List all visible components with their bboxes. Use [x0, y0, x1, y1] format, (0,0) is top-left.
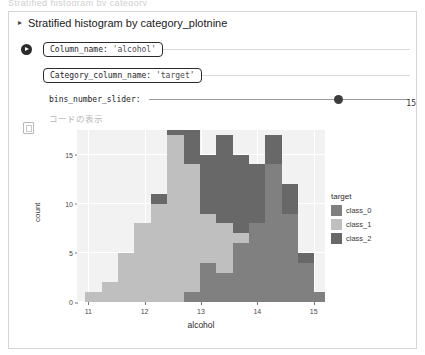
page-title: Stratified histogram by category_plotnin… [28, 17, 227, 29]
histogram-bar [184, 130, 200, 164]
histogram-bar [85, 292, 101, 302]
histogram-bar [233, 243, 249, 302]
notebook-cell-panel: ▸ Stratified histogram by category_plotn… [8, 11, 417, 349]
legend-items: class_0class_1class_2 [331, 204, 401, 245]
legend-label: class_0 [346, 206, 371, 215]
histogram-bar [167, 135, 183, 302]
x-tick-mark [314, 302, 315, 305]
category-column-name-row: Category_column_name: 'target' [9, 62, 416, 88]
histogram-bar [118, 253, 134, 302]
legend-swatch [331, 205, 342, 216]
legend-title: target [331, 192, 401, 201]
category-column-name-field[interactable]: Category_column_name: 'target' [43, 68, 202, 83]
legend-swatch [331, 219, 342, 230]
legend-swatch [331, 233, 342, 244]
histogram-bar [282, 214, 298, 302]
x-tick-label: 11 [85, 308, 92, 315]
plot-panel [77, 130, 325, 302]
histogram-bar [184, 292, 200, 302]
clipped-header-text: Stratified histogram by category [8, 0, 147, 6]
x-tick-mark [145, 302, 146, 305]
x-axis-label: alcohol [77, 320, 325, 330]
category-column-name-value: 'target' [156, 71, 195, 80]
y-axis-label: count [33, 202, 42, 222]
category-column-name-label: Category_column_name: [50, 71, 151, 80]
y-tick-label: 10 [65, 200, 73, 207]
run-gutter[interactable] [9, 44, 43, 55]
histogram-bar [249, 164, 265, 223]
x-tick-label: 14 [253, 308, 261, 315]
column-name-field[interactable]: Column_name: 'alcohol' [43, 42, 163, 57]
histogram-bar [216, 273, 232, 302]
bins-number-slider[interactable]: 15 [149, 99, 410, 100]
x-tick-label: 13 [197, 308, 205, 315]
histogram-bar [134, 223, 150, 302]
histogram-bar [167, 130, 183, 135]
histogram-bar [265, 164, 281, 302]
bins-slider-value: 15 [406, 99, 416, 108]
histogram-bar [233, 233, 249, 243]
legend-item: class_1 [331, 218, 401, 231]
bins-slider-row: bins_number_slider: 15 [9, 88, 416, 110]
x-tick-label: 12 [141, 308, 149, 315]
histogram-bar [298, 263, 314, 302]
x-tick-label: 15 [310, 308, 318, 315]
legend: target class_0class_1class_2 [331, 192, 401, 246]
x-axis-ticks: 1112131415 [77, 302, 325, 318]
histogram-bar [314, 292, 325, 302]
x-tick-mark [257, 302, 258, 305]
histogram-bar [216, 135, 232, 223]
widget-controls: Column_name: 'alcohol' Category_column_n… [9, 36, 416, 124]
y-tick-label: 0 [69, 299, 73, 306]
play-icon[interactable] [21, 44, 32, 55]
histogram-plot: count 051015 1112131415 alcohol target c… [27, 130, 405, 342]
histogram-bar [200, 263, 216, 302]
histogram-bar [200, 214, 216, 263]
panel-header[interactable]: ▸ Stratified histogram by category_plotn… [9, 12, 416, 34]
y-tick-label: 15 [65, 151, 73, 158]
column-name-row: Column_name: 'alcohol' [9, 36, 416, 62]
histogram-bar [102, 282, 118, 302]
histogram-bar [151, 204, 167, 302]
output-area: count 051015 1112131415 alcohol target c… [9, 116, 416, 350]
x-tick-mark [88, 302, 89, 305]
column-name-label: Column_name: [50, 45, 108, 54]
legend-label: class_2 [346, 234, 371, 243]
histogram-bar [298, 253, 314, 263]
slider-handle[interactable] [334, 95, 343, 104]
gridline-v [88, 130, 89, 302]
histogram-bar [265, 135, 281, 164]
histogram-bar [282, 184, 298, 213]
bins-slider-label: bins_number_slider: [49, 95, 141, 104]
histogram-bar [200, 155, 216, 214]
histogram-bar [233, 155, 249, 234]
y-axis-ticks: 051015 [45, 130, 73, 302]
legend-label: class_1 [346, 220, 371, 229]
histogram-bar [184, 164, 200, 292]
histogram-bar [216, 223, 232, 272]
legend-item: class_0 [331, 204, 401, 217]
chevron-right-icon[interactable]: ▸ [18, 19, 22, 27]
histogram-bar [151, 194, 167, 204]
x-tick-mark [201, 302, 202, 305]
column-name-value: 'alcohol' [113, 45, 156, 54]
histogram-bar [249, 223, 265, 302]
y-tick-label: 5 [69, 249, 73, 256]
legend-item: class_2 [331, 232, 401, 245]
